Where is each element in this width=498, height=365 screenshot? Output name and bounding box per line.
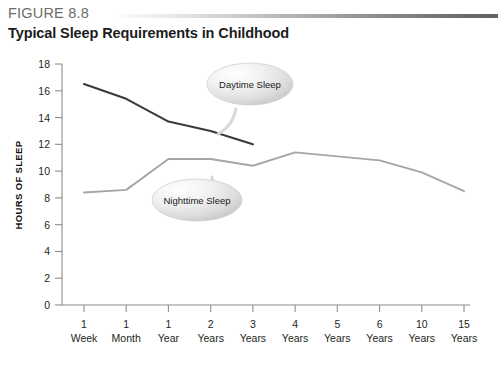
callout-nighttime-sleep: Nighttime Sleep (152, 177, 242, 221)
callout-tail-daytime (218, 109, 236, 134)
x-tick-unit: Years (324, 332, 350, 344)
x-tick-unit: Month (112, 332, 141, 344)
y-tick-label: 8 (44, 192, 50, 204)
x-tick-value: 3 (250, 318, 256, 330)
y-tick-label: 14 (38, 112, 50, 124)
x-tick-value: 1 (123, 318, 129, 330)
figure-header: FIGURE 8.8 (8, 5, 490, 23)
x-tick-value: 6 (377, 318, 383, 330)
x-tick-value: 5 (334, 318, 340, 330)
x-tick-unit: Years (366, 332, 392, 344)
x-tick-value: 4 (292, 318, 298, 330)
x-tick-unit: Years (409, 332, 435, 344)
x-axis-ticks (84, 305, 464, 312)
x-axis-tick-labels-top: 1 1 1 2 3 4 5 6 10 15 (81, 318, 470, 330)
y-tick-label: 0 (44, 299, 50, 311)
figure-title: Typical Sleep Requirements in Childhood (8, 25, 289, 41)
x-tick-unit: Year (158, 332, 180, 344)
callout-daytime-sleep: Daytime Sleep (207, 63, 293, 134)
y-axis-title: HOURS OF SLEEP (13, 140, 24, 229)
y-tick-label: 6 (44, 219, 50, 231)
y-tick-label: 16 (38, 85, 50, 97)
page-bottom-clipped-text (0, 352, 498, 365)
x-tick-unit: Years (451, 332, 477, 344)
y-axis-ticks (55, 64, 62, 305)
x-tick-value: 10 (416, 318, 428, 330)
y-axis-tick-labels: 18 16 14 12 10 8 6 4 2 0 (38, 58, 50, 311)
chart-area: 18 16 14 12 10 8 6 4 2 0 HOURS OF SLEEP (0, 46, 498, 346)
header-gradient-rule (118, 14, 498, 18)
y-tick-label: 2 (44, 272, 50, 284)
callout-label-nighttime: Nighttime Sleep (163, 195, 230, 206)
x-tick-unit: Years (197, 332, 223, 344)
x-tick-unit: Week (71, 332, 98, 344)
x-tick-value: 15 (458, 318, 470, 330)
sleep-requirements-line-chart: 18 16 14 12 10 8 6 4 2 0 HOURS OF SLEEP (0, 46, 498, 346)
series-line-nighttime-sleep (84, 152, 464, 192)
y-tick-label: 18 (38, 58, 50, 70)
x-tick-unit: Years (282, 332, 308, 344)
x-tick-value: 1 (165, 318, 171, 330)
callout-label-daytime: Daytime Sleep (219, 79, 281, 90)
y-tick-label: 4 (44, 245, 50, 257)
figure-number: FIGURE 8.8 (8, 5, 89, 21)
x-tick-unit: Years (240, 332, 266, 344)
x-tick-value: 2 (208, 318, 214, 330)
x-axis-tick-labels-unit: Week Month Year Years Years Years Years … (71, 332, 478, 344)
figure-page: FIGURE 8.8 Typical Sleep Requirements in… (0, 0, 498, 365)
y-tick-label: 10 (38, 165, 50, 177)
y-tick-label: 12 (38, 138, 50, 150)
x-tick-value: 1 (81, 318, 87, 330)
